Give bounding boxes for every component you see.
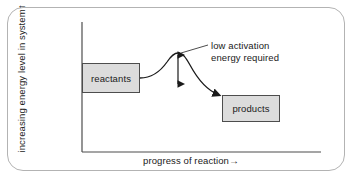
reaction-pathway-curve (140, 53, 219, 95)
activation-energy-annotation: low activation energy required (211, 40, 279, 63)
x-axis-arrow-icon: → (229, 155, 239, 166)
products-label: products (232, 103, 269, 114)
y-axis-arrow-icon: ↑ (16, 4, 27, 9)
y-axis-label: increasing energy level in system↑ (16, 29, 27, 153)
reactants-label: reactants (91, 73, 131, 84)
products-box: products (222, 95, 280, 122)
annotation-line-1: low activation (211, 40, 279, 52)
x-axis-label: progress of reaction→ (143, 155, 239, 166)
energy-profile-figure: reactants products low activation energy… (0, 0, 358, 182)
reactants-box: reactants (82, 63, 140, 93)
annotation-leader-line (181, 45, 208, 53)
annotation-line-2: energy required (211, 52, 279, 64)
y-axis-label-text: increasing energy level in system (16, 9, 27, 152)
x-axis-label-text: progress of reaction (143, 155, 229, 166)
